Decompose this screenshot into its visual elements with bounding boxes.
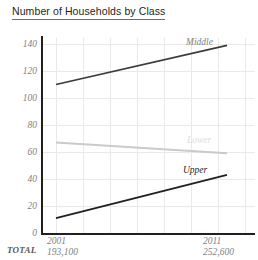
gridline-vertical (164, 38, 165, 234)
x-axis-total-2001: 193,100 (47, 247, 78, 258)
x-axis-tick-2011: 2011 252,600 (203, 236, 234, 258)
y-axis-tick-100: 100 (23, 93, 37, 103)
x-axis-tick-2001: 2001 193,100 (47, 236, 78, 258)
y-axis (41, 36, 43, 234)
gridline-horizontal (43, 44, 255, 45)
gridline-horizontal (43, 179, 255, 180)
y-axis-tick-120: 120 (23, 66, 37, 76)
x-axis-year-2001: 2001 (47, 236, 78, 247)
series-label-upper: Upper (183, 165, 207, 175)
x-axis-total-2011: 252,600 (203, 247, 234, 258)
total-row-label: TOTAL (7, 245, 36, 255)
y-axis-tick-60: 60 (28, 147, 38, 157)
series-label-lower: Lower (187, 135, 211, 145)
gridline-horizontal (43, 125, 255, 126)
y-axis-tick-140: 140 (23, 39, 37, 49)
series-label-middle: Middle (186, 37, 213, 47)
y-axis-tick-0: 0 (32, 228, 37, 238)
gridline-vertical (218, 38, 219, 234)
gridline-vertical (137, 38, 138, 234)
gridline-horizontal (43, 152, 255, 153)
x-axis-year-2011: 2011 (203, 236, 234, 247)
y-axis-tick-40: 40 (28, 174, 38, 184)
gridline-horizontal (43, 98, 255, 99)
page-title: Number of Households by Class (12, 5, 165, 20)
gridline-horizontal (43, 206, 255, 207)
y-axis-tick-80: 80 (28, 120, 38, 130)
gridline-vertical (56, 38, 57, 234)
y-axis-tick-20: 20 (28, 201, 38, 211)
chart-container: Number of Households by Class 140 120 10… (0, 0, 258, 260)
gridline-horizontal (43, 71, 255, 72)
gridline-vertical (110, 38, 111, 234)
gridline-vertical (245, 38, 246, 234)
x-axis (41, 233, 255, 235)
plot-area (43, 38, 255, 234)
gridline-vertical (83, 38, 84, 234)
